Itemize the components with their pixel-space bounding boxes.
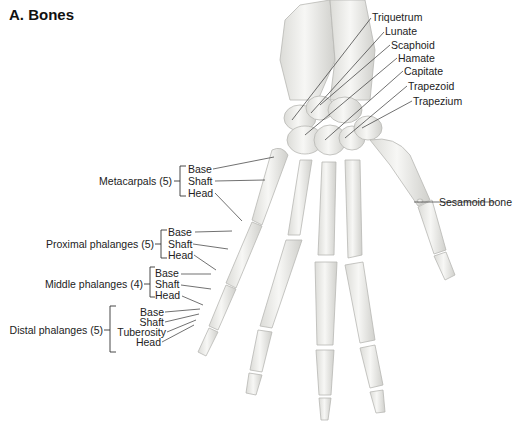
label-metacarpal-base: Base (188, 164, 212, 175)
metacarpal-5 (252, 148, 288, 225)
proximal-phalanx-2 (345, 262, 375, 343)
metacarpal-3 (318, 162, 336, 255)
scaphoid-bone (328, 97, 362, 123)
label-hamate: Hamate (398, 53, 435, 64)
metacarpal-1 (370, 139, 430, 206)
middle-phalanx-2 (360, 345, 383, 388)
label-metacarpal-shaft: Shaft (188, 176, 213, 187)
label-proximal-phalanges: Proximal phalanges (5) (20, 239, 154, 250)
ulna-bone (280, 0, 335, 100)
label-distal-phalanges: Distal phalanges (5) (0, 325, 103, 336)
label-proximal-base: Base (168, 227, 192, 238)
label-capitate: Capitate (404, 66, 443, 77)
metacarpal-4 (288, 160, 312, 235)
middle-phalanx-4 (250, 330, 272, 372)
proximal-phalanx-4 (260, 240, 302, 328)
middle-phalanx-5 (209, 285, 236, 330)
label-distal-head: Head (110, 337, 161, 348)
radius-bone (330, 0, 375, 100)
label-middle-head: Head (155, 290, 180, 301)
distal-phalanx-4 (246, 373, 262, 395)
label-trapezium: Trapezium (413, 96, 462, 107)
proximal-phalanx-3 (315, 262, 337, 345)
distal-phalanx-2 (370, 390, 385, 413)
sesamoid-bone (417, 199, 423, 203)
distal-phalanx-5 (198, 328, 218, 356)
proximal-phalanx-1 (418, 200, 446, 254)
middle-phalanx-3 (316, 350, 334, 395)
label-sesamoid-bone: Sesamoid bone (439, 197, 512, 208)
proximal-phalanx-5 (226, 222, 262, 288)
label-triquetrum: Triquetrum (372, 12, 422, 23)
label-trapezoid: Trapezoid (408, 81, 454, 92)
label-middle-phalanges: Middle phalanges (4) (20, 279, 143, 290)
distal-phalanx-1 (434, 252, 455, 280)
label-proximal-head: Head (168, 250, 193, 261)
hand-skeleton-illustration (0, 0, 513, 426)
label-scaphoid: Scaphoid (391, 40, 435, 51)
label-metacarpal-head: Head (188, 188, 213, 199)
metacarpal-2 (345, 160, 362, 258)
label-metacarpals: Metacarpals (5) (84, 176, 172, 187)
label-lunate: Lunate (385, 26, 417, 37)
distal-phalanx-3 (319, 398, 331, 420)
